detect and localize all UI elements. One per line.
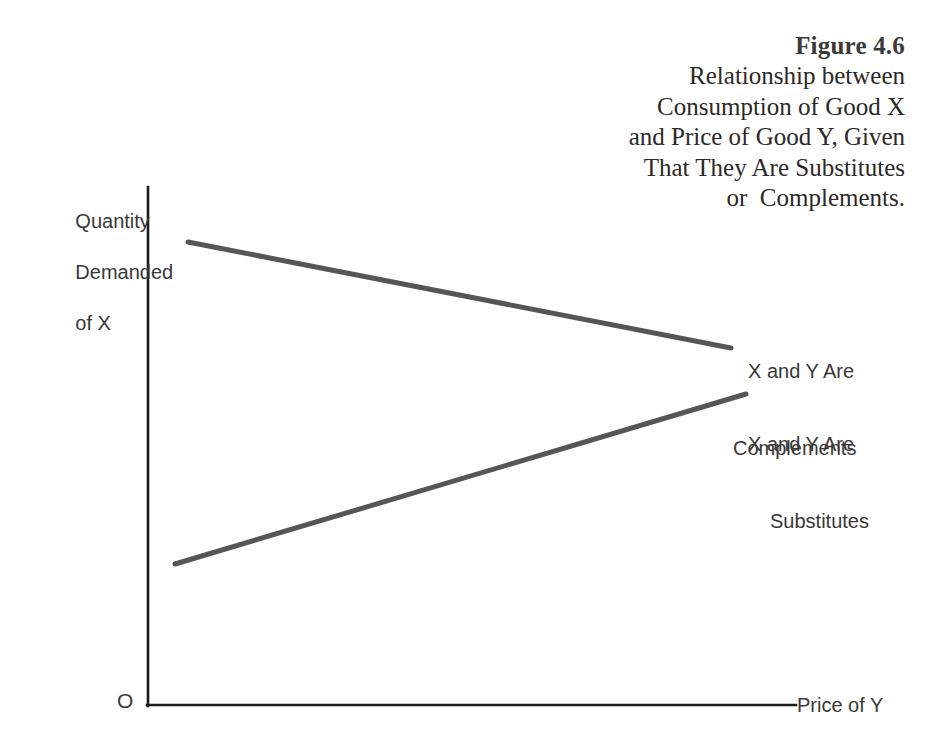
y-axis-label-line-1: Quantity	[75, 210, 149, 232]
y-axis-label: Quantity Demanded of X	[42, 183, 173, 362]
y-axis-label-line-3: of X	[75, 312, 111, 334]
substitutes-annotation-line-2: Substitutes	[733, 509, 869, 535]
plot-area: Quantity Demanded of X O Price of Y X an…	[0, 0, 935, 748]
substitutes-annotation-line-1: X and Y Are	[733, 432, 869, 458]
complements-curve	[188, 242, 731, 348]
y-axis-label-line-2: Demanded	[75, 261, 173, 283]
figure-container: Figure 4.6 Relationship between Consumpt…	[0, 0, 935, 748]
origin-label: O	[117, 689, 133, 713]
substitutes-curve	[175, 394, 746, 564]
substitutes-annotation: X and Y Are Substitutes	[733, 381, 869, 585]
x-axis-label: Price of Y	[797, 693, 883, 717]
